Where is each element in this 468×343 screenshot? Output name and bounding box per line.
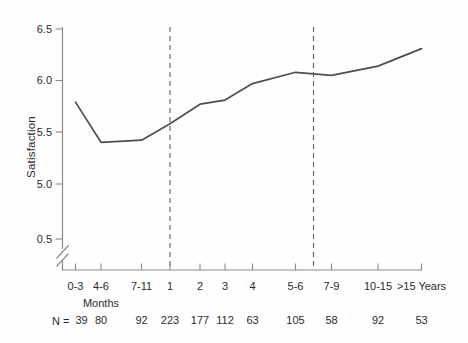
x-tick-label: 2 (197, 280, 203, 292)
x-tick-label: 0-3 (68, 280, 84, 292)
y-axis-title: Satisfaction (26, 116, 37, 178)
x-tick-label: 4 (249, 280, 255, 292)
x-tick-label: 1 (167, 280, 173, 292)
y-tick-label: 0.5 (37, 233, 52, 245)
n-value: 112 (216, 314, 234, 326)
x-tick-label: 5-6 (288, 280, 304, 292)
satisfaction-line-chart: 6.56.05.55.00.50-34-67-1112345-67-910-15… (0, 0, 468, 343)
x-tick-label: 3 (222, 280, 228, 292)
x-tick-label: 4-6 (93, 280, 109, 292)
y-tick-label: 6.5 (37, 23, 52, 35)
y-tick-label: 5.5 (37, 126, 52, 138)
n-value: 92 (372, 314, 384, 326)
satisfaction-trend-line (76, 49, 422, 143)
satisfaction-chart-page: 6.56.05.55.00.50-34-67-1112345-67-910-15… (0, 0, 468, 343)
x-tick-label: 7-11 (131, 280, 152, 292)
y-tick-label: 6.0 (37, 74, 52, 86)
n-value: 105 (286, 314, 304, 326)
n-value: 92 (135, 314, 147, 326)
n-value: 63 (246, 314, 258, 326)
n-equals-label: N = (52, 316, 69, 327)
n-value: 223 (161, 314, 179, 326)
y-tick-label: 5.0 (37, 178, 52, 190)
x-axis-months-label: Months (83, 298, 119, 309)
x-tick-label: 7-9 (324, 280, 340, 292)
x-tick-label: 10-15 (364, 280, 392, 292)
n-value: 53 (415, 314, 427, 326)
n-value: 177 (191, 314, 209, 326)
n-value: 80 (95, 314, 107, 326)
n-value: 58 (325, 314, 337, 326)
n-value: 39 (75, 314, 87, 326)
x-tick-label: >15 Years (397, 280, 447, 292)
